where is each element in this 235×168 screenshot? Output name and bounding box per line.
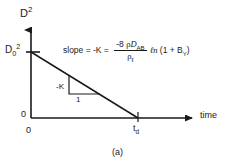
y-axis-title: D2 bbox=[20, 8, 32, 19]
equation-lhs: slope = -K = bbox=[63, 46, 111, 55]
y-origin-label: 0 bbox=[21, 110, 26, 119]
y-intercept-superscript: 2 bbox=[16, 42, 20, 51]
y-axis-title-base: D bbox=[20, 7, 28, 19]
y-intercept-label: D02 bbox=[5, 45, 20, 55]
slope-run-label: 1 bbox=[76, 96, 80, 104]
data-line-dsquared bbox=[31, 52, 138, 118]
x-axis-title: time bbox=[200, 111, 217, 120]
log-argument-open: (1 + B bbox=[157, 45, 182, 55]
log-argument-close: ) bbox=[187, 45, 190, 55]
denominator-subscript: ℓ bbox=[132, 55, 134, 62]
slope-equation: slope = -K = -8 ρDAB ρℓ ℓn (1 + BY) bbox=[63, 40, 190, 60]
y-axis-title-exponent: 2 bbox=[28, 5, 32, 14]
plot-area bbox=[0, 0, 235, 168]
equation-numerator: -8 ρDAB bbox=[114, 40, 146, 50]
x-origin-label: 0 bbox=[26, 126, 31, 135]
figure-dsquared-law: D2 time D02 0 0 td -K 1 slope = -K = -8 … bbox=[0, 0, 235, 168]
numerator-coefficient: -8 bbox=[116, 39, 126, 49]
equation-fraction: -8 ρDAB ρℓ bbox=[114, 40, 146, 60]
slope-rise-label: -K bbox=[56, 83, 64, 91]
equation-log-term: ℓn (1 + BY) bbox=[150, 46, 190, 55]
equation-denominator: ρℓ bbox=[125, 51, 135, 61]
x-end-label-subscript: d bbox=[136, 128, 140, 135]
figure-caption: (a) bbox=[0, 148, 235, 157]
x-end-label: td bbox=[133, 124, 139, 133]
